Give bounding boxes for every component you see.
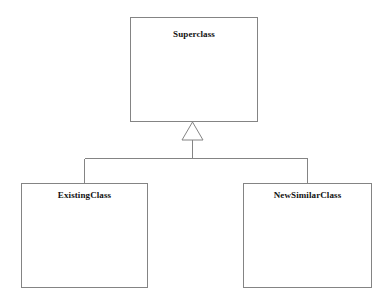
uml-class-newsimilarclass-label: NewSimilarClass <box>244 190 371 201</box>
uml-class-existingclass-label: ExistingClass <box>22 190 147 201</box>
uml-class-superclass[interactable]: Superclass <box>130 17 258 122</box>
uml-class-superclass-label: Superclass <box>131 29 257 40</box>
uml-class-existingclass[interactable]: ExistingClass <box>21 183 148 288</box>
uml-class-diagram-canvas: Superclass ExistingClass NewSimilarClass <box>0 0 391 302</box>
uml-class-newsimilarclass[interactable]: NewSimilarClass <box>243 183 372 288</box>
inheritance-triangle-icon <box>182 122 203 140</box>
